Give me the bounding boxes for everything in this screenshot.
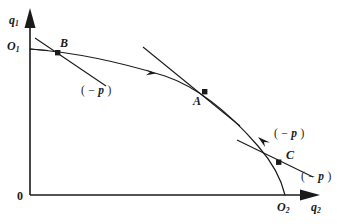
y-axis-arrowhead bbox=[25, 8, 36, 28]
point-marker-b bbox=[55, 50, 60, 55]
price-label-tangent-c: ( − p ) bbox=[301, 171, 332, 183]
x-axis-arrowhead bbox=[300, 190, 320, 201]
curve-direction-arrow-backward bbox=[258, 137, 270, 147]
price-label-tangent-b: ( − p ) bbox=[81, 85, 112, 97]
tangent-line-b bbox=[35, 38, 106, 86]
o1-label: O1 bbox=[7, 40, 20, 53]
tangent-line-a bbox=[143, 47, 240, 126]
origin-label: 0 bbox=[17, 190, 23, 202]
price-label-tangent-a: ( − p ) bbox=[274, 128, 305, 140]
transformation-curve-chart bbox=[0, 0, 337, 224]
point-label-c: C bbox=[286, 149, 294, 161]
figure-container: q1 O1 0 O2 q2 B A C ( − p ) ( − p ) ( − … bbox=[0, 0, 337, 224]
point-label-a: A bbox=[193, 95, 201, 107]
point-label-b: B bbox=[60, 37, 68, 49]
point-marker-a bbox=[202, 89, 207, 94]
x-axis-label: q2 bbox=[311, 201, 321, 214]
point-marker-c bbox=[276, 160, 281, 165]
y-axis-label: q1 bbox=[9, 14, 19, 27]
transformation-curve bbox=[30, 49, 285, 195]
o2-label: O2 bbox=[277, 201, 290, 214]
